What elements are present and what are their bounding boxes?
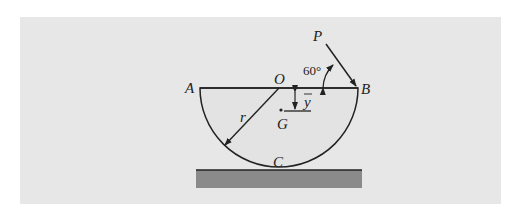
label-g: G bbox=[277, 116, 288, 132]
ground-block bbox=[196, 170, 362, 188]
diagram: A B O P G C r y 60° bbox=[0, 0, 524, 221]
label-c: C bbox=[273, 154, 284, 170]
force-p-arrow bbox=[326, 44, 356, 86]
label-r: r bbox=[240, 109, 246, 125]
label-p: P bbox=[312, 28, 322, 44]
label-a: A bbox=[184, 80, 195, 96]
centroid-dot bbox=[279, 108, 282, 111]
label-angle: 60° bbox=[303, 63, 321, 78]
label-ybar: y bbox=[302, 94, 311, 110]
label-b: B bbox=[361, 81, 370, 97]
angle-arc bbox=[323, 65, 333, 88]
label-o: O bbox=[274, 71, 285, 87]
